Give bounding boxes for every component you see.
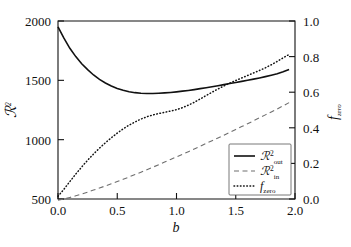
left-tick-label: 1500 <box>25 73 51 88</box>
bottom-tick-label: 1.0 <box>168 203 184 218</box>
bottom-axis-ticks: 0.00.51.01.52.0 <box>50 193 303 218</box>
right-tick-label: 0.4 <box>303 121 320 136</box>
x-axis-label: b <box>173 220 180 235</box>
chart-legend[interactable]: ℛ2outℛ2infzero <box>229 144 291 195</box>
svg-text:ℛ2: ℛ2 <box>3 102 19 118</box>
svg-text:fzero: fzero <box>326 104 343 120</box>
bottom-tick-label: 0.0 <box>50 203 66 218</box>
right-tick-label: 0.0 <box>303 192 319 207</box>
chart-figure: 500100015002000 0.00.20.40.60.81.0 0.00.… <box>0 0 351 247</box>
bottom-tick-label: 2.0 <box>287 203 303 218</box>
right-axis-label: fzero <box>326 104 343 120</box>
left-axis-label: ℛ2 <box>3 102 19 118</box>
left-tick-label: 2000 <box>25 14 51 29</box>
right-tick-label: 0.6 <box>303 85 320 100</box>
right-tick-label: 0.8 <box>303 50 319 65</box>
curve-solid <box>58 27 289 94</box>
left-tick-label: 1000 <box>25 133 51 148</box>
chart-svg: 500100015002000 0.00.20.40.60.81.0 0.00.… <box>0 0 351 247</box>
x-axis-label-text: b <box>173 220 180 235</box>
bottom-tick-label: 1.5 <box>228 203 244 218</box>
bottom-tick-label: 0.5 <box>109 203 125 218</box>
right-axis-ticks: 0.00.20.40.60.81.0 <box>289 14 320 207</box>
right-tick-label: 1.0 <box>303 14 319 29</box>
left-tick-label: 500 <box>32 192 52 207</box>
right-tick-label: 0.2 <box>303 156 319 171</box>
